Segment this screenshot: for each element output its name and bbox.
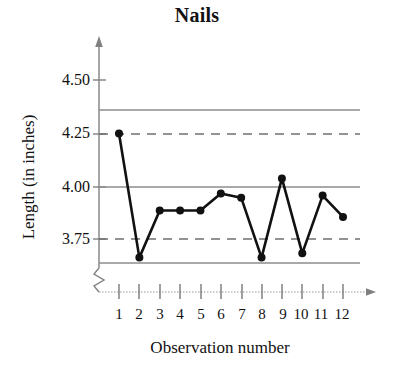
data-point: [339, 213, 347, 221]
data-point: [196, 207, 204, 215]
data-point: [258, 254, 266, 262]
data-point: [115, 130, 123, 138]
data-point: [319, 192, 327, 200]
x-axis: [99, 288, 376, 295]
reference-lines: [99, 110, 360, 263]
y-axis: [95, 36, 103, 268]
chart-container: Nails Length (in inches) Observation num…: [0, 0, 394, 380]
data-point: [237, 194, 245, 202]
data-point: [135, 254, 143, 262]
plot-area: [0, 0, 394, 380]
data-point: [217, 189, 225, 197]
data-point: [278, 174, 286, 182]
data-point: [176, 207, 184, 215]
data-point: [298, 249, 306, 257]
axis-break-icon: [94, 268, 104, 292]
data-point: [156, 207, 164, 215]
